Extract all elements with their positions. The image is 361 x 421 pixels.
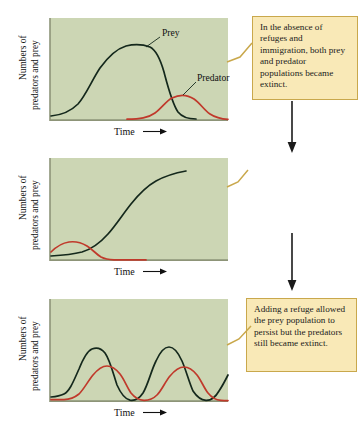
x-axis-arrow-head xyxy=(160,269,167,275)
y-axis-label-line1: Numbers of xyxy=(18,175,28,220)
panel-refuge-added: Numbers of predators and prey Time Addin… xyxy=(0,140,361,280)
x-axis-arrow-head xyxy=(160,410,167,416)
plot-area-background xyxy=(50,299,228,401)
callout-2-leader-line xyxy=(227,170,248,187)
panel-immigration: Numbers of predators and prey Time Howev… xyxy=(0,281,361,421)
chart-panel-3: Numbers of predators and prey Time xyxy=(0,281,361,421)
y-axis-label-line1: Numbers of xyxy=(18,316,28,361)
y-axis-label-line2: predators and prey xyxy=(30,180,40,250)
y-axis-label-line2: predators and prey xyxy=(30,321,40,391)
x-axis-label: Time xyxy=(114,407,135,418)
callout-3-leader-line xyxy=(227,326,251,345)
plot-area-background xyxy=(50,158,228,260)
x-axis-label: Time xyxy=(114,266,135,277)
predator-prey-figure: Prey Predator Numbers of predators and p… xyxy=(0,0,361,421)
chart-panel-2: Numbers of predators and prey Time xyxy=(0,140,361,281)
